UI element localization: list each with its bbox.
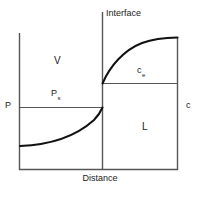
saturation-pressure-base: P bbox=[51, 88, 57, 98]
saturation-pressure-subscript: s bbox=[58, 95, 61, 101]
equilibrium-concentration-label: ce bbox=[137, 66, 145, 77]
right-axis-label: c bbox=[186, 101, 191, 110]
left-axis-label: P bbox=[5, 101, 11, 110]
saturation-pressure-label: Ps bbox=[51, 89, 60, 100]
diagram-canvas bbox=[0, 0, 200, 198]
interface-label: Interface bbox=[106, 9, 141, 18]
phase-interface-diagram: Interface Distance V L P c Ps ce bbox=[0, 0, 200, 198]
liquid-region-label: L bbox=[142, 122, 148, 132]
vapor-region-label: V bbox=[54, 56, 61, 66]
equilibrium-concentration-subscript: e bbox=[142, 72, 145, 78]
equilibrium-concentration-base: c bbox=[137, 65, 142, 75]
x-axis-label: Distance bbox=[0, 174, 200, 183]
vapor-pressure-curve bbox=[20, 108, 103, 147]
